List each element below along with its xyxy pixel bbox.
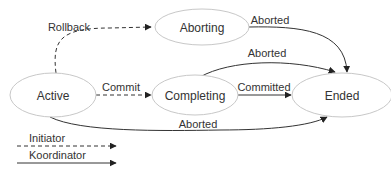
node-aborting: Aborting xyxy=(155,9,249,45)
edge-aborted-from-active: Aborted xyxy=(50,117,327,131)
edge-label-committed: Committed xyxy=(237,81,290,93)
node-label-completing: Completing xyxy=(165,89,226,103)
legend-item-initiator: Initiator xyxy=(17,132,116,146)
legend-item-koordinator: Koordinator xyxy=(17,149,116,163)
node-completing: Completing xyxy=(152,75,238,115)
edge-rollback: Rollback xyxy=(48,21,151,73)
edge-committed: Committed xyxy=(237,81,291,95)
legend: Initiator Koordinator xyxy=(17,132,116,163)
legend-label-koordinator: Koordinator xyxy=(29,149,86,161)
node-active: Active xyxy=(10,73,96,117)
node-label-aborting: Aborting xyxy=(180,21,225,35)
edge-label-commit: Commit xyxy=(102,81,140,93)
edge-commit: Commit xyxy=(96,81,151,95)
edge-label-aborted-top: Aborted xyxy=(251,14,290,26)
edge-label-aborted-middle: Aborted xyxy=(248,47,287,59)
edge-aborted-from-completing: Aborted xyxy=(200,47,335,77)
node-label-ended: Ended xyxy=(325,89,360,103)
node-ended: Ended xyxy=(292,73,391,117)
legend-label-initiator: Initiator xyxy=(29,132,65,144)
state-diagram: Rollback Commit Committed Aborted Aborte… xyxy=(0,0,391,169)
node-label-active: Active xyxy=(37,89,70,103)
edge-label-aborted-bottom: Aborted xyxy=(179,118,218,130)
edge-label-rollback: Rollback xyxy=(48,21,91,33)
